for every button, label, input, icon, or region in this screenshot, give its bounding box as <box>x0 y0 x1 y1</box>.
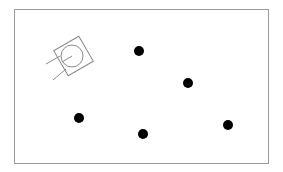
landmark-dot-4 <box>138 129 148 139</box>
landmarks-group <box>74 46 233 139</box>
landmark-dot-2 <box>183 78 193 88</box>
landmark-dot-3 <box>74 113 84 123</box>
landmark-dot-1 <box>134 46 144 56</box>
map-scene <box>0 0 283 172</box>
robot-icon <box>46 36 93 80</box>
landmark-dot-5 <box>223 120 233 130</box>
robot-heading-line <box>62 56 72 62</box>
scene-layer <box>0 0 283 172</box>
robot-sensor-line-lower <box>53 69 66 80</box>
